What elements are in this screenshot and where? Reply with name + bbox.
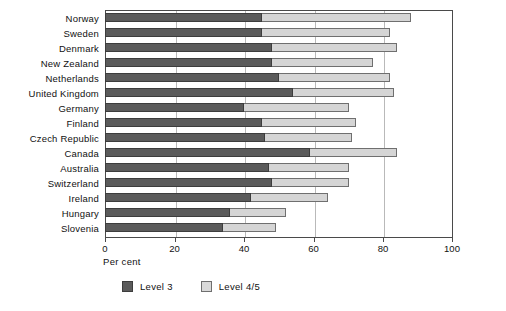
category-label: Hungary — [0, 209, 99, 219]
legend-item-level3: Level 3 — [122, 281, 173, 292]
category-label: Finland — [0, 119, 99, 129]
bar-segment-level3 — [105, 88, 293, 97]
xtick-0 — [105, 238, 106, 242]
bar-row — [105, 178, 349, 187]
bar-segment-level3 — [105, 148, 310, 157]
bar-segment-level3 — [105, 13, 262, 22]
bar-segment-level3 — [105, 178, 272, 187]
category-axis: Norway Sweden Denmark New Zealand Nether… — [0, 10, 99, 238]
xtick-label-60: 60 — [294, 243, 334, 254]
bar-segment-level45 — [279, 73, 390, 82]
xtick-label-80: 80 — [363, 243, 403, 254]
bar-row — [105, 58, 373, 67]
xtick-20 — [175, 238, 176, 242]
bar-segment-level45 — [310, 148, 397, 157]
bar-row — [105, 163, 349, 172]
bar-segment-level45 — [272, 43, 397, 52]
category-label: Netherlands — [0, 74, 99, 84]
bar-row — [105, 13, 411, 22]
bar-segment-level3 — [105, 43, 272, 52]
legend-item-level45: Level 4/5 — [201, 281, 260, 292]
xtick-label-100: 100 — [432, 243, 472, 254]
xtick-40 — [244, 238, 245, 242]
bar-row — [105, 28, 390, 37]
bar-segment-level45 — [262, 13, 412, 22]
bar-row — [105, 88, 394, 97]
bar-segment-level45 — [223, 223, 275, 232]
bar-segment-level45 — [272, 58, 373, 67]
bar-row — [105, 103, 349, 112]
bar-segment-level3 — [105, 118, 262, 127]
xtick-80 — [383, 238, 384, 242]
category-label: Canada — [0, 149, 99, 159]
bar-segment-level45 — [262, 118, 356, 127]
bar-segment-level45 — [251, 193, 328, 202]
category-label: New Zealand — [0, 59, 99, 69]
bar-row — [105, 208, 286, 217]
category-label: Switzerland — [0, 179, 99, 189]
bar-row — [105, 223, 276, 232]
bar-segment-level45 — [244, 103, 348, 112]
legend-swatch-icon-level45 — [201, 281, 212, 292]
xtick-label-40: 40 — [224, 243, 264, 254]
bar-row — [105, 148, 397, 157]
bar-segment-level3 — [105, 193, 251, 202]
xtick-60 — [314, 238, 315, 242]
legend-label-level45: Level 4/5 — [219, 281, 260, 292]
legend-label-level3: Level 3 — [140, 281, 173, 292]
category-label: Czech Republic — [0, 134, 99, 144]
category-label: Australia — [0, 164, 99, 174]
xtick-100 — [452, 238, 453, 242]
bar-segment-level45 — [262, 28, 391, 37]
category-label: Germany — [0, 104, 99, 114]
chart-legend: Level 3 Level 4/5 — [122, 281, 288, 292]
bar-row — [105, 193, 328, 202]
x-axis-title: Per cent — [103, 256, 141, 267]
bar-segment-level45 — [230, 208, 286, 217]
xtick-label-0: 0 — [85, 243, 125, 254]
bar-row — [105, 118, 356, 127]
bar-row — [105, 43, 397, 52]
bar-row — [105, 133, 352, 142]
bar-segment-level45 — [293, 88, 394, 97]
bar-segment-level3 — [105, 103, 244, 112]
bars-container — [105, 10, 453, 238]
bar-segment-level3 — [105, 73, 279, 82]
bar-segment-level3 — [105, 133, 265, 142]
bar-segment-level45 — [272, 178, 349, 187]
category-label: Ireland — [0, 194, 99, 204]
bar-segment-level3 — [105, 223, 223, 232]
category-label: United Kingdom — [0, 89, 99, 99]
bar-segment-level3 — [105, 208, 230, 217]
xtick-label-20: 20 — [155, 243, 195, 254]
category-label: Norway — [0, 14, 99, 24]
bar-segment-level3 — [105, 28, 262, 37]
bar-segment-level3 — [105, 58, 272, 67]
bar-row — [105, 73, 390, 82]
category-label: Slovenia — [0, 224, 99, 234]
bar-segment-level45 — [265, 133, 352, 142]
bar-segment-level45 — [269, 163, 349, 172]
category-label: Denmark — [0, 44, 99, 54]
category-label: Sweden — [0, 29, 99, 39]
bar-segment-level3 — [105, 163, 269, 172]
legend-swatch-icon-level3 — [122, 281, 133, 292]
stacked-bar-chart: Norway Sweden Denmark New Zealand Nether… — [0, 0, 506, 311]
